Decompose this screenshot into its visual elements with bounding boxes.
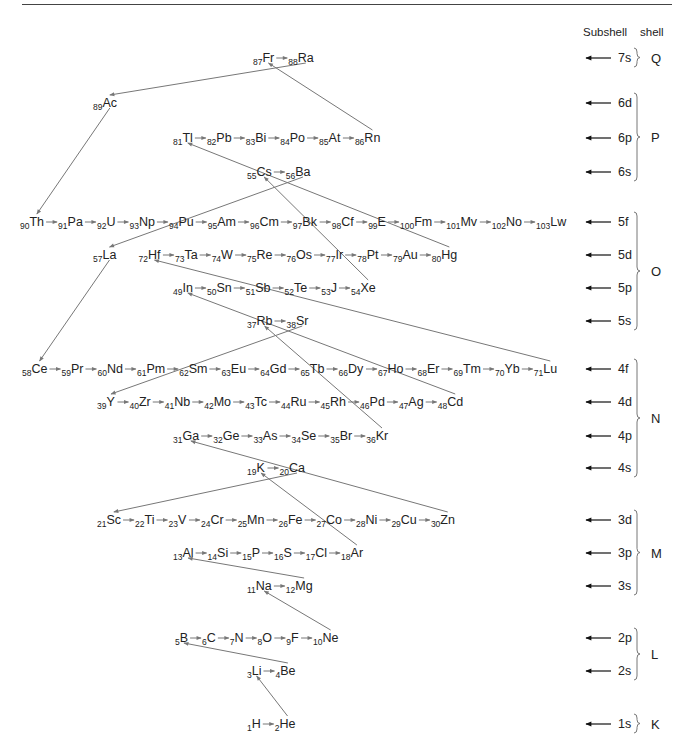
atomic-number: 59 [61, 368, 71, 378]
element-symbol: Xe [360, 281, 375, 295]
element-symbol: Kr [376, 429, 389, 443]
atomic-number: 44 [281, 401, 291, 411]
element-symbol: La [102, 248, 116, 262]
element-symbol: Dy [348, 362, 364, 376]
shell-brace-k [634, 714, 640, 733]
element-ho: 67Ho [378, 362, 403, 378]
filling-link-lu-hf [154, 260, 550, 361]
element-ta: 73Ta [175, 248, 198, 264]
element-fe: 26Fe [279, 513, 303, 529]
element-lw: 103Lw [536, 215, 567, 231]
element-p: 15P [242, 546, 260, 562]
element-sm: 62Sm [179, 362, 207, 378]
element-symbol: Ti [145, 513, 155, 527]
element-in: 49In [173, 281, 193, 297]
atomic-number: 73 [175, 254, 185, 264]
element-symbol: Rn [364, 131, 380, 145]
element-ni: 28Ni [356, 513, 377, 529]
element-symbol: Tl [182, 131, 192, 145]
element-symbol: B [180, 631, 188, 645]
element-am: 95Am [208, 215, 236, 231]
element-hf: 72Hf [138, 248, 160, 264]
element-symbol: Nd [107, 362, 123, 376]
element-cd: 48Cd [438, 395, 463, 411]
atomic-number: 84 [280, 137, 290, 147]
element-xe: 54Xe [351, 281, 376, 297]
filling-link-rn-fr [268, 63, 372, 130]
atomic-number: 60 [97, 368, 107, 378]
element-symbol: Ar [351, 546, 364, 560]
atomic-number: 10 [313, 637, 323, 647]
atomic-number: 35 [330, 435, 340, 445]
element-symbol: Bk [302, 215, 317, 229]
subshell-label-4f: 4f [618, 362, 629, 376]
shell-label-p: P [651, 130, 660, 145]
element-rh: 45Rh [321, 395, 346, 411]
element-be: 4Be [275, 664, 295, 680]
filling-link-ne-na [264, 591, 330, 630]
atomic-number: 41 [165, 401, 175, 411]
atomic-number: 74 [212, 254, 222, 264]
atomic-number: 77 [326, 254, 336, 264]
atomic-number: 22 [135, 519, 145, 529]
atomic-number: 30 [431, 519, 441, 529]
atomic-number: 98 [332, 221, 342, 231]
atomic-number: 92 [97, 221, 107, 231]
element-symbol: Pu [178, 215, 193, 229]
element-li: 3Li [247, 664, 261, 680]
subshell-label-4s: 4s [618, 461, 631, 475]
filling-link-be-b [184, 643, 288, 663]
filling-link-ca-sc [114, 473, 297, 512]
element-ti: 22Ti [135, 513, 154, 529]
element-zn: 30Zn [431, 513, 455, 529]
element-symbol: Ce [31, 362, 47, 376]
atomic-number: 50 [207, 287, 217, 297]
atomic-number: 72 [138, 254, 148, 264]
atomic-number: 47 [399, 401, 409, 411]
element-pt: 78Pt [357, 248, 379, 264]
element-bk: 97Bk [293, 215, 318, 231]
element-symbol: H [252, 717, 261, 731]
atomic-number: 29 [391, 519, 401, 529]
element-symbol: Np [139, 215, 155, 229]
element-symbol: Rh [330, 395, 346, 409]
atomic-number: 100 [400, 221, 414, 231]
atomic-number: 43 [245, 401, 255, 411]
element-cs: 55Cs [247, 165, 272, 181]
element-symbol: No [506, 215, 522, 229]
atomic-number: 97 [293, 221, 303, 231]
atomic-number: 16 [274, 552, 284, 562]
element-cm: 96Cm [250, 215, 279, 231]
atomic-number: 45 [321, 401, 331, 411]
filling-link-sr-y [111, 326, 302, 394]
element-gd: 64Gd [260, 362, 286, 378]
filling-link-kr-rb [265, 326, 382, 428]
element-symbol: Br [340, 429, 353, 443]
element-symbol: Mv [460, 215, 477, 229]
element-symbol: Au [402, 248, 417, 262]
atomic-number: 34 [291, 435, 301, 445]
element-symbol: Ga [182, 429, 199, 443]
element-ge: 32Ge [213, 429, 239, 445]
element-kr: 36Kr [366, 429, 388, 445]
subshell-header: Subshell [583, 26, 627, 38]
element-se: 34Se [291, 429, 316, 445]
element-nd: 60Nd [97, 362, 122, 378]
element-symbol: Te [294, 281, 307, 295]
aufbau-filling-diagram: 87Fr88Ra89Ac81Tl82Pb83Bi84Po85At86Rn55Cs… [0, 0, 686, 753]
atomic-number: 69 [453, 368, 463, 378]
atomic-number: 51 [246, 287, 256, 297]
element-re: 75Re [247, 248, 272, 264]
shell-label-q: Q [651, 51, 661, 66]
element-sc: 21Sc [97, 513, 121, 529]
element-mn: 25Mn [238, 513, 265, 529]
element-br: 35Br [330, 429, 352, 445]
atomic-number: 48 [438, 401, 448, 411]
element-symbol: Hf [148, 248, 161, 262]
element-cl: 17Cl [306, 546, 327, 562]
shell-header: shell [640, 26, 664, 38]
shell-brace-q [634, 48, 640, 67]
subshell-label-3s: 3s [618, 579, 631, 593]
atomic-number: 102 [492, 221, 506, 231]
element-symbol: Cf [341, 215, 354, 229]
